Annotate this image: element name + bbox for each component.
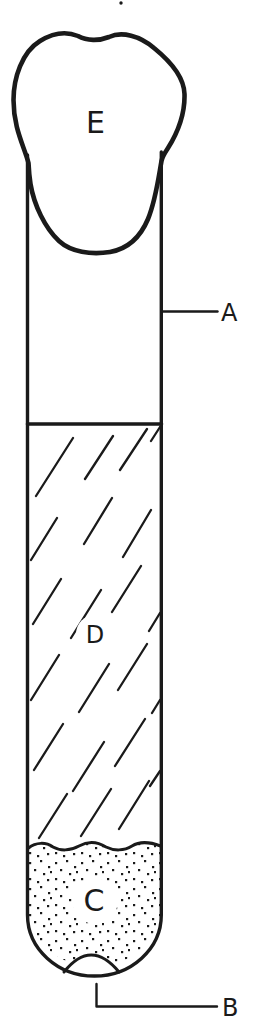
label-c: C (84, 883, 105, 918)
diagram-canvas: A B E D C (0, 0, 254, 1033)
label-e: E (86, 105, 105, 140)
cotton-plug (14, 33, 185, 253)
label-a: A (221, 299, 238, 327)
label-b: B (222, 994, 238, 1022)
test-tube-diagram: A B E D C (0, 0, 254, 1033)
leader-line-b (97, 984, 218, 1007)
stray-mark (119, 1, 122, 4)
label-d: D (86, 621, 104, 649)
